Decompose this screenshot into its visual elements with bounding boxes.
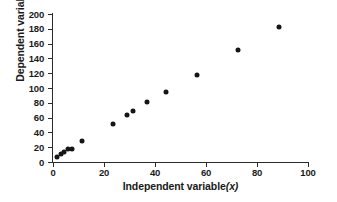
y-tick-label: 80 — [0, 97, 44, 108]
data-point — [195, 73, 199, 77]
y-tick-mark — [48, 103, 52, 104]
data-point — [277, 25, 281, 29]
data-point — [125, 113, 129, 117]
scatter-chart: Dependent variable(y) Independent variab… — [0, 0, 337, 202]
y-tick-mark — [48, 147, 52, 148]
x-axis-title: Independent variable(x) — [53, 180, 308, 192]
y-tick-label: 200 — [0, 9, 44, 20]
y-tick-mark — [48, 44, 52, 45]
y-tick-label: 60 — [0, 112, 44, 123]
y-tick-mark — [48, 132, 52, 133]
y-tick-mark — [48, 88, 52, 89]
x-tick-label: 100 — [293, 167, 323, 178]
x-tick-label: 20 — [89, 167, 119, 178]
x-tick-label: 40 — [140, 167, 170, 178]
y-tick-label: 20 — [0, 142, 44, 153]
x-tick-label: 60 — [191, 167, 221, 178]
plot-area — [53, 14, 308, 162]
y-tick-label: 40 — [0, 127, 44, 138]
y-tick-label: 0 — [0, 157, 44, 168]
data-point — [236, 48, 240, 52]
y-tick-mark — [48, 29, 52, 30]
x-axis-title-text: Independent variable — [123, 180, 226, 192]
y-tick-mark — [48, 118, 52, 119]
y-tick-label: 100 — [0, 83, 44, 94]
y-tick-mark — [48, 58, 52, 59]
x-axis-line — [52, 162, 309, 163]
y-tick-mark — [48, 162, 52, 163]
x-tick-label: 0 — [38, 167, 68, 178]
data-point — [111, 122, 115, 126]
x-tick-label: 80 — [242, 167, 272, 178]
data-point — [55, 155, 59, 159]
data-point — [70, 147, 74, 151]
y-tick-label: 140 — [0, 53, 44, 64]
y-tick-label: 180 — [0, 23, 44, 34]
x-axis-title-symbol: (x) — [226, 180, 239, 192]
y-tick-mark — [48, 73, 52, 74]
y-tick-label: 160 — [0, 38, 44, 49]
y-tick-label: 120 — [0, 68, 44, 79]
y-tick-mark — [48, 14, 52, 15]
